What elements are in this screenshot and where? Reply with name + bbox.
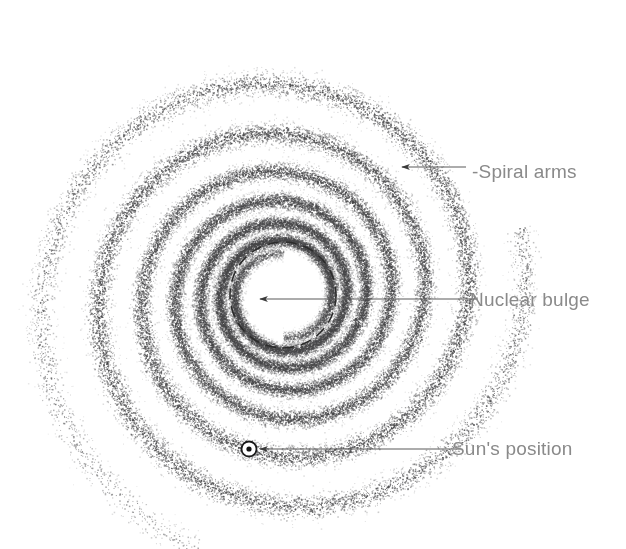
label-suns-position: Sun's position <box>452 439 573 458</box>
label-nuclear-bulge: Nuclear bulge <box>470 290 590 309</box>
label-spiral-arms: -Spiral arms <box>472 162 577 181</box>
galaxy-stipple-canvas <box>0 0 626 549</box>
galaxy-diagram-figure: -Spiral arms Nuclear bulge Sun's positio… <box>0 0 626 549</box>
